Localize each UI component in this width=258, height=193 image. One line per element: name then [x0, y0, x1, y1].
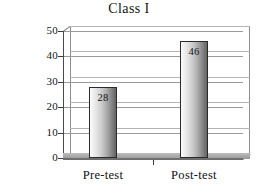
y-axis-tick-label: 30	[24, 76, 58, 87]
y-axis-tick-label: 20	[24, 101, 58, 112]
y-axis-tick-label: 40	[24, 50, 58, 61]
plot-area: 01020304050 2846 Pre-testPost-test	[0, 0, 258, 193]
x-axis-category-label: Post-test	[149, 168, 239, 183]
y-axis-tick-label: 10	[24, 127, 58, 138]
bar-value-label: 46	[181, 46, 207, 57]
x-axis-tick	[153, 160, 154, 165]
bar: 28	[89, 87, 117, 158]
bar-value-label: 28	[90, 92, 116, 103]
y-axis-tick-label: 0	[24, 152, 58, 163]
bar-chart: Class I Percent Correct 01020304050 2846…	[0, 0, 258, 193]
y-axis-tick-label: 50	[24, 25, 58, 36]
bar: 46	[180, 41, 208, 158]
x-axis-category-label: Pre-test	[58, 168, 148, 183]
